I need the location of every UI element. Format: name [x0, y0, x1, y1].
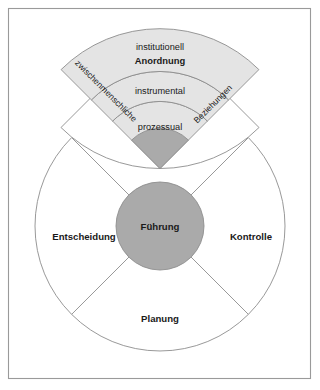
wheel-sector-label-entscheidung: Entscheidung: [52, 231, 116, 242]
diagram-figure: institutionell Anordnung instrumental pr…: [0, 0, 320, 390]
diagram-canvas: institutionell Anordnung instrumental pr…: [0, 0, 320, 390]
fan-band-label-institutionell: institutionell: [136, 42, 184, 52]
wheel-sector-label-kontrolle: Kontrolle: [230, 231, 272, 242]
fan-band-label-prozessual: prozessual: [138, 122, 182, 132]
wheel-hub-label-fuehrung: Führung: [141, 221, 180, 232]
fan-band-label-instrumental: instrumental: [135, 86, 185, 96]
fan-band-emphasis-anordnung: Anordnung: [135, 55, 186, 66]
wheel-sector-label-planung: Planung: [141, 313, 179, 324]
fan-group: institutionell Anordnung instrumental pr…: [61, 29, 259, 169]
